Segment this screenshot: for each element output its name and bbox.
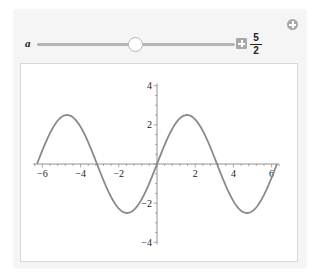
- slider-value-display: 5 2: [250, 33, 262, 56]
- x-tick-label: −2: [113, 168, 124, 179]
- y-tick-label: −2: [141, 198, 152, 209]
- slider-variable-label: a: [25, 37, 31, 49]
- x-tick-label: 4: [231, 168, 236, 179]
- y-tick-label: 2: [147, 119, 152, 130]
- x-tick-label: 2: [193, 168, 198, 179]
- sine-plot: −6−4−2246−4−224: [21, 64, 299, 263]
- fraction-numerator: 5: [250, 33, 262, 45]
- x-tick-label: −4: [75, 168, 86, 179]
- x-tick-label: −6: [37, 168, 48, 179]
- fraction-denominator: 2: [250, 45, 262, 56]
- y-tick-label: −4: [141, 237, 152, 248]
- y-tick-label: 4: [147, 80, 152, 91]
- add-circle-icon[interactable]: [287, 19, 298, 30]
- plot-frame: −6−4−2246−4−224: [20, 63, 298, 262]
- plus-square-icon[interactable]: [236, 38, 247, 49]
- slider-thumb[interactable]: [128, 37, 143, 52]
